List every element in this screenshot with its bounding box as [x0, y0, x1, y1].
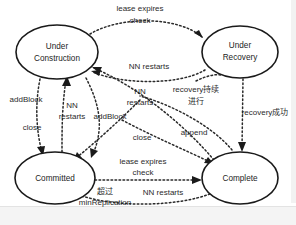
edge-label-lease-expires-check-top-line1: lease expires: [116, 4, 163, 13]
diagram-canvas: Under Construction Under Recovery Commit…: [0, 0, 296, 225]
node-under-recovery-label-line1: Under: [229, 41, 252, 50]
edge-label-nn-restarts-left-line2: restarts: [59, 112, 86, 121]
arrowhead-ur-to-complete: [238, 142, 246, 152]
arrowhead-uc-to-ur-top: [194, 30, 203, 38]
edge-label-lease-expires-check-bottom: lease expires check: [119, 157, 166, 177]
edge-label-nn-restarts-lower-mid-line2: restarts: [127, 98, 154, 107]
node-complete[interactable]: Complete: [202, 152, 278, 204]
edge-label-exceeds-min-replication-line2: minReplication: [79, 198, 131, 207]
edge-uc-to-committed-close: [37, 79, 42, 152]
edge-append-complete-to-uc: [140, 96, 232, 150]
node-under-construction-label-line1: Under: [46, 42, 69, 51]
node-under-recovery-label-line2: Recovery: [223, 53, 258, 62]
edge-label-lease-expires-check-bottom-line2: check: [133, 168, 155, 177]
node-committed-label: Committed: [35, 174, 75, 183]
edge-label-recovery-continues-line2: 进行: [188, 96, 204, 106]
edge-label-nn-restarts-left-line1: NN: [66, 101, 78, 110]
edge-label-close-center: close: [133, 133, 152, 142]
arrowhead-uc-addblock-down: [90, 148, 98, 158]
edge-label-recovery-success: recovery成功: [242, 107, 289, 117]
node-under-recovery[interactable]: Under Recovery: [202, 26, 278, 78]
edge-label-add-block-left: addBlock: [10, 95, 44, 104]
edge-label-recovery-continues: recovery持续 进行: [173, 84, 220, 106]
edge-label-exceeds-min-replication-line1: 超过: [97, 186, 113, 196]
edge-label-add-block-center: addBlock: [94, 112, 128, 121]
edge-label-nn-restarts-lower-mid-line1: NN: [134, 87, 146, 96]
edge-ur-to-uc-nn-restarts: [93, 70, 205, 82]
edge-label-close-left: close: [23, 123, 42, 132]
edge-label-recovery-continues-line1: recovery持续: [173, 84, 220, 94]
arrowhead-committed-to-complete: [192, 176, 202, 184]
node-under-recovery-shape[interactable]: [202, 26, 278, 78]
nodes-layer: Under Construction Under Recovery Commit…: [15, 25, 278, 204]
node-under-construction[interactable]: Under Construction: [16, 25, 98, 79]
edge-label-lease-expires-check-bottom-line1: lease expires: [119, 157, 166, 166]
node-complete-label: Complete: [222, 174, 257, 183]
edge-label-append: append: [181, 128, 208, 137]
edge-recovery-continues: [196, 75, 221, 81]
edge-label-lease-expires-check-top-line2: check: [130, 16, 152, 25]
node-under-construction-shape[interactable]: [16, 25, 98, 79]
edge-label-nn-restarts-bottom: NN restarts: [143, 188, 183, 197]
edge-label-nn-restarts-lower-mid: NN restarts: [127, 87, 154, 107]
edge-addblock-into-committed: [76, 100, 140, 158]
edge-label-nn-restarts-mid: NN restarts: [129, 62, 169, 71]
node-committed[interactable]: Committed: [15, 152, 95, 204]
node-under-construction-label-line2: Construction: [34, 54, 80, 63]
state-diagram: Under Construction Under Recovery Commit…: [0, 0, 296, 225]
